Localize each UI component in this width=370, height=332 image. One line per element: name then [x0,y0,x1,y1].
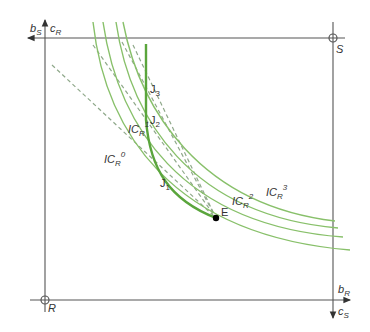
label-cr: cR [50,22,62,37]
label-cs: cS [338,305,350,320]
origin-s-label: S [336,43,344,55]
label-br: bR [338,283,350,298]
point-e-label: E [221,206,228,218]
origin-r-label: R [48,302,56,314]
ic-label-3: ICR3 [266,183,288,201]
point-j1-label: J1 [160,177,171,192]
edgeworth-box-diagram: bS cR bR cS S R ICR0 ICR1 ICR2 ICR3 E J1… [0,0,370,332]
label-bs: bS [30,22,42,37]
budget-line-1 [93,45,216,218]
ic-label-0: ICR0 [104,150,126,168]
point-e [213,215,219,221]
point-j3-label: J3 [150,83,161,98]
